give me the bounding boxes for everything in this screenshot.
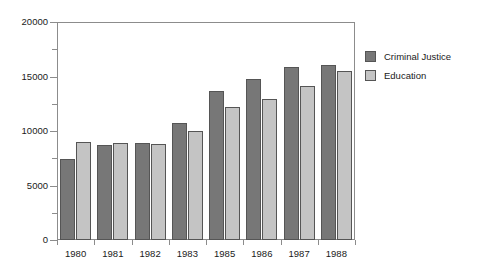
bar-chart: 05000100001500020000 1980198119821983198… (0, 0, 477, 274)
x-tick-label: 1986 (251, 248, 272, 259)
x-tick (206, 240, 207, 245)
bar (225, 107, 240, 240)
y-tick-major (50, 77, 57, 78)
y-tick-major (50, 240, 57, 241)
x-tick-label: 1985 (214, 248, 235, 259)
x-tick-label: 1983 (177, 248, 198, 259)
legend-label-education: Education (384, 70, 426, 81)
legend-swatch-criminal-justice (365, 51, 376, 62)
bar (113, 143, 128, 240)
legend-item-education: Education (365, 66, 473, 85)
bar (246, 79, 261, 240)
x-tick (281, 240, 282, 245)
bar (284, 67, 299, 240)
x-tick (57, 240, 58, 245)
legend-label-criminal-justice: Criminal Justice (384, 51, 451, 62)
chart-legend: Criminal Justice Education (365, 47, 473, 85)
bar (151, 144, 166, 240)
x-tick-label: 1982 (140, 248, 161, 259)
x-tick-label: 1987 (289, 248, 310, 259)
x-tick (318, 240, 319, 245)
bar (60, 159, 75, 240)
y-tick-major (50, 186, 57, 187)
bar (172, 123, 187, 240)
bar (188, 131, 203, 240)
x-tick-label: 1980 (65, 248, 86, 259)
bars-layer (57, 22, 355, 240)
x-tick-label: 1981 (102, 248, 123, 259)
bar (262, 99, 277, 240)
bar (321, 65, 336, 240)
bar (135, 143, 150, 240)
y-tick-major (50, 22, 57, 23)
x-tick (243, 240, 244, 245)
x-tick (355, 240, 356, 245)
x-tick (132, 240, 133, 245)
y-axis: 05000100001500020000 (0, 0, 48, 274)
bar (337, 71, 352, 240)
bar (209, 91, 224, 240)
bar (97, 145, 112, 240)
y-tick-label: 0 (43, 235, 48, 245)
y-tick-label: 20000 (22, 17, 48, 27)
x-tick (169, 240, 170, 245)
legend-item-criminal-justice: Criminal Justice (365, 47, 473, 66)
x-tick-label: 1988 (326, 248, 347, 259)
y-tick-label: 15000 (22, 72, 48, 82)
y-tick-label: 5000 (27, 181, 48, 191)
y-tick-major (50, 131, 57, 132)
legend-swatch-education (365, 70, 376, 81)
y-tick-label: 10000 (22, 126, 48, 136)
x-tick (94, 240, 95, 245)
bar (300, 86, 315, 240)
bar (76, 142, 91, 240)
